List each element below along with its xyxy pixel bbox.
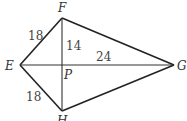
- vertex-label-g: G: [177, 59, 187, 73]
- vertex-label-p: P: [63, 68, 73, 82]
- length-label-eh: 18: [26, 90, 41, 104]
- length-label-fp: 14: [66, 39, 82, 53]
- length-label-pg: 24: [96, 50, 112, 64]
- kite-diagram: F E P G H 18 14 24 18: [0, 0, 187, 121]
- vertex-label-h: H: [56, 114, 68, 121]
- vertex-label-f: F: [57, 1, 67, 15]
- side-gh: [62, 65, 174, 111]
- vertex-label-e: E: [4, 59, 14, 73]
- side-he: [20, 65, 62, 111]
- length-label-ef: 18: [28, 29, 43, 43]
